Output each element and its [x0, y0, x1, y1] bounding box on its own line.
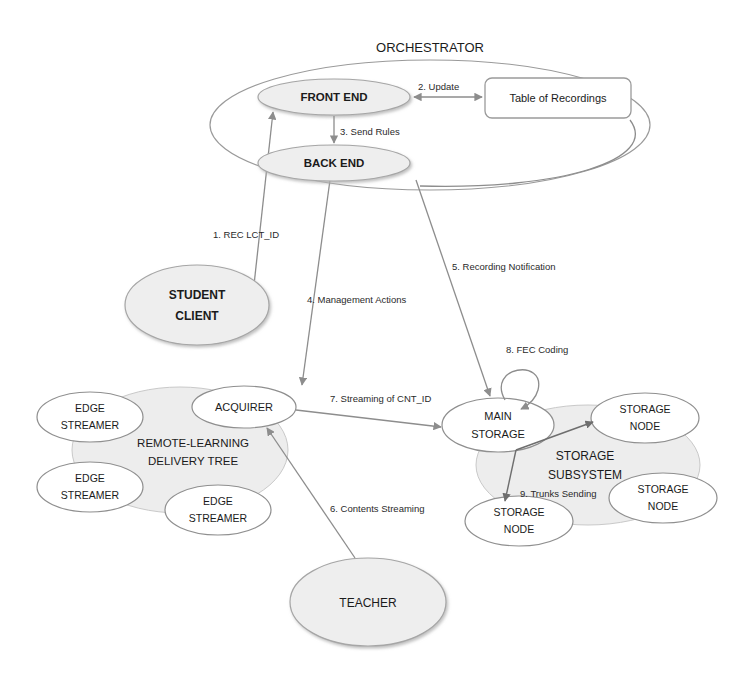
- storage-node-2-ellipse: [609, 473, 717, 523]
- orchestrator-wrap-curve: [420, 120, 635, 186]
- teacher-label: TEACHER: [339, 596, 397, 610]
- front-end-label: FRONT END: [300, 91, 367, 103]
- edge-7-streaming-cnt-id-line: [296, 410, 441, 427]
- edge-1-label: 1. REC LCT_ID: [213, 229, 279, 240]
- back-end-label: BACK END: [304, 157, 365, 169]
- edge-5-recording-notification-line: [416, 180, 490, 396]
- edge-4-management-actions-line: [302, 180, 330, 385]
- storage-node-1-ellipse: [591, 393, 699, 443]
- student-client-label-line1: STUDENT: [169, 288, 226, 302]
- delivery-tree-label-line1: REMOTE-LEARNING: [137, 437, 249, 449]
- storage-node-2-label-line1: STORAGE: [637, 483, 688, 495]
- diagram-canvas: ORCHESTRATOR 1. REC LCT_ID 4. Management…: [0, 0, 740, 686]
- storage-node-1-label-line1: STORAGE: [619, 403, 670, 415]
- main-storage-label-line2: STORAGE: [471, 428, 525, 440]
- table-of-recordings-node[interactable]: Table of Recordings: [485, 78, 631, 118]
- storage-node-1-label-line2: NODE: [630, 420, 660, 432]
- teacher-node[interactable]: TEACHER: [290, 558, 446, 646]
- edge-streamer-2-ellipse: [37, 462, 143, 512]
- edge-6-contents-streaming-line: [267, 428, 355, 558]
- edge-streamer-3-label-line2: STREAMER: [189, 512, 248, 524]
- edge-5-label: 5. Recording Notification: [452, 261, 556, 272]
- edge-streamer-3-ellipse: [165, 485, 271, 535]
- main-storage-node[interactable]: MAIN STORAGE: [442, 398, 554, 452]
- storage-node-2-label-line2: NODE: [648, 500, 678, 512]
- main-storage-label-line1: MAIN: [484, 410, 512, 422]
- storage-node-1[interactable]: STORAGE NODE: [591, 393, 699, 443]
- edge-8-label: 8. FEC Coding: [506, 344, 568, 355]
- front-end-node[interactable]: FRONT END: [258, 79, 410, 115]
- edge-3-label: 3. Send Rules: [340, 126, 400, 137]
- edge-streamer-3-node[interactable]: EDGE STREAMER: [165, 485, 271, 535]
- storage-node-2[interactable]: STORAGE NODE: [609, 473, 717, 523]
- storage-node-3-label-line2: NODE: [504, 523, 534, 535]
- back-end-node[interactable]: BACK END: [258, 145, 410, 181]
- acquirer-node[interactable]: ACQUIRER: [192, 386, 296, 428]
- edge-streamer-1-node[interactable]: EDGE STREAMER: [37, 392, 143, 442]
- storage-node-3-ellipse: [465, 496, 573, 546]
- student-client-label-line2: CLIENT: [175, 309, 219, 323]
- edge-streamer-2-label-line1: EDGE: [75, 472, 105, 484]
- main-storage-ellipse: [442, 398, 554, 452]
- student-client-ellipse: [125, 265, 269, 345]
- storage-subsystem-label-line2: SUBSYSTEM: [548, 468, 622, 482]
- storage-subsystem-label-line1: STORAGE: [556, 449, 614, 463]
- edge-9-label: 9. Trunks Sending: [520, 488, 597, 499]
- edge-6-label: 6. Contents Streaming: [330, 503, 425, 514]
- student-client-node[interactable]: STUDENT CLIENT: [125, 265, 269, 345]
- edge-1-rec-lct-id-line: [252, 112, 273, 303]
- edge-streamer-1-label-line1: EDGE: [75, 402, 105, 414]
- edge-streamer-2-node[interactable]: EDGE STREAMER: [37, 462, 143, 512]
- edge-streamer-3-label-line1: EDGE: [203, 495, 233, 507]
- delivery-tree-label-line2: DELIVERY TREE: [148, 455, 238, 467]
- edge-4-label: 4. Management Actions: [307, 294, 407, 305]
- architecture-diagram: ORCHESTRATOR 1. REC LCT_ID 4. Management…: [0, 0, 740, 686]
- edge-streamer-1-label-line2: STREAMER: [61, 419, 120, 431]
- storage-node-3[interactable]: STORAGE NODE: [465, 496, 573, 546]
- edge-streamer-2-label-line2: STREAMER: [61, 489, 120, 501]
- edge-7-label: 7. Streaming of CNT_ID: [330, 393, 432, 404]
- orchestrator-title: ORCHESTRATOR: [376, 40, 484, 55]
- edge-streamer-1-ellipse: [37, 392, 143, 442]
- edge-2-label: 2. Update: [418, 81, 459, 92]
- acquirer-label: ACQUIRER: [215, 401, 273, 413]
- table-of-recordings-label: Table of Recordings: [509, 92, 607, 104]
- storage-node-3-label-line1: STORAGE: [493, 506, 544, 518]
